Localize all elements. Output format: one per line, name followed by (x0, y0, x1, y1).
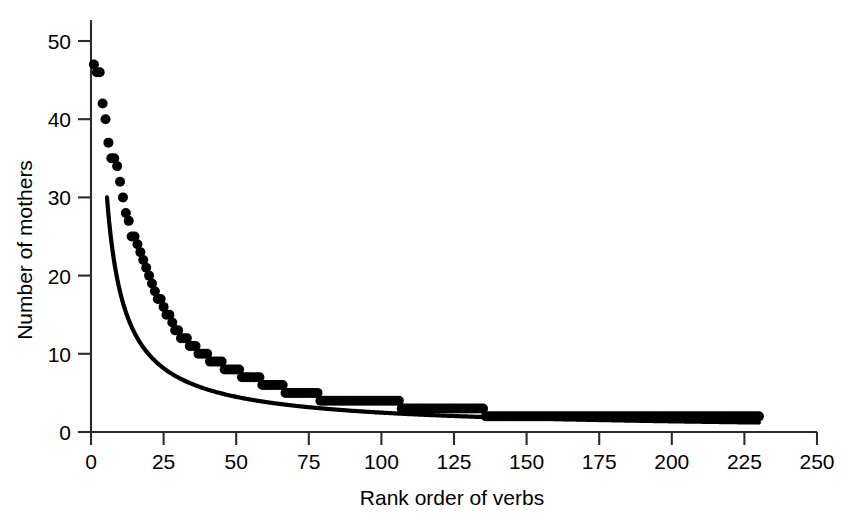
data-point (112, 161, 122, 171)
figure-container: 0255075100125150175200225250 01020304050… (0, 0, 855, 526)
plot-area: 0255075100125150175200225250 01020304050… (13, 20, 835, 509)
y-tick-label-30: 30 (48, 186, 71, 209)
data-point (95, 67, 105, 77)
x-tick-label-0: 0 (85, 450, 97, 473)
x-tick-label-250: 250 (799, 450, 834, 473)
y-axis-tick-labels: 01020304050 (48, 30, 71, 444)
rank-frequency-chart: 0255075100125150175200225250 01020304050… (0, 0, 855, 526)
x-axis-tick-labels: 0255075100125150175200225250 (85, 450, 834, 473)
x-tick-label-200: 200 (654, 450, 689, 473)
y-axis-label: Number of mothers (13, 160, 36, 340)
x-tick-label-100: 100 (364, 450, 399, 473)
x-axis-ticks (91, 432, 744, 445)
x-tick-label-25: 25 (152, 450, 175, 473)
x-tick-label-150: 150 (509, 450, 544, 473)
axis-lines (91, 20, 817, 445)
x-tick-label-125: 125 (436, 450, 471, 473)
x-tick-label-175: 175 (582, 450, 617, 473)
data-point (103, 138, 113, 148)
x-axis-label: Rank order of verbs (360, 486, 544, 509)
data-point (124, 216, 134, 226)
y-tick-label-10: 10 (48, 343, 71, 366)
fitted-curve (107, 197, 759, 422)
y-tick-label-0: 0 (59, 421, 71, 444)
data-point (118, 192, 128, 202)
data-points (89, 59, 764, 421)
y-tick-label-40: 40 (48, 108, 71, 131)
y-axis-ticks (78, 41, 91, 432)
fit-curve-path (107, 197, 759, 422)
data-point (754, 411, 764, 421)
x-tick-label-225: 225 (727, 450, 762, 473)
y-tick-label-50: 50 (48, 30, 71, 53)
data-point (115, 177, 125, 187)
data-point (101, 114, 111, 124)
x-tick-label-75: 75 (297, 450, 320, 473)
x-tick-label-50: 50 (225, 450, 248, 473)
y-tick-label-20: 20 (48, 265, 71, 288)
data-point (98, 99, 108, 109)
